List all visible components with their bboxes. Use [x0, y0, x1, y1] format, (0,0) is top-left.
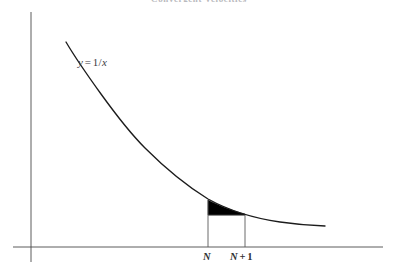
- tick-label-n: N: [203, 251, 211, 262]
- curve-y-equals-one-over-x: [66, 42, 325, 226]
- tick-label-n-plus-1-value: 1: [247, 251, 253, 262]
- tick-label-n-text: N: [203, 251, 211, 262]
- curve-equation-equals: =: [83, 56, 93, 68]
- plot-canvas: [0, 0, 398, 278]
- tick-label-n-plus-1-operator: +: [238, 251, 247, 262]
- tick-label-n-plus-1: N+1: [230, 251, 253, 262]
- tick-label-n-plus-1-symbol: N: [230, 251, 238, 262]
- curve-equation-label: y=1/x: [78, 56, 107, 68]
- curve-equation-denominator: x: [102, 56, 107, 68]
- figure-container: Convergent Velocities y=1/x N N+1: [0, 0, 398, 278]
